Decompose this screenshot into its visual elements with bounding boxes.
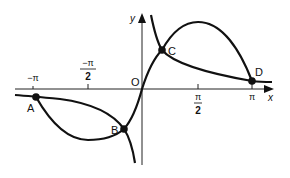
point-c-label: C [168,45,176,57]
y-axis-label: y [129,13,136,24]
tick-label-pi: π [249,92,255,102]
graph-diagram: A B C D y x O −π −π 2 π 2 π [0,0,290,178]
x-axis-label: x [267,92,274,103]
tick-label-neg-pi-over-2-den: 2 [85,71,91,82]
tick-label-neg-pi: −π [27,73,38,83]
point-c [158,46,166,54]
y-axis-arrow-icon [138,13,146,23]
point-a [32,93,40,101]
point-a-label: A [27,102,35,114]
tick-label-pi-over-2-num: π [195,92,201,102]
point-d [248,77,256,85]
point-b [120,125,128,133]
sine-curve [36,22,252,140]
tick-label-neg-pi-over-2-num: −π [82,58,93,68]
x-axis [15,85,274,93]
point-d-label: D [255,66,263,78]
tick-label-pi-over-2-den: 2 [195,105,201,116]
origin-label: O [131,76,140,88]
point-b-label: B [111,124,118,136]
